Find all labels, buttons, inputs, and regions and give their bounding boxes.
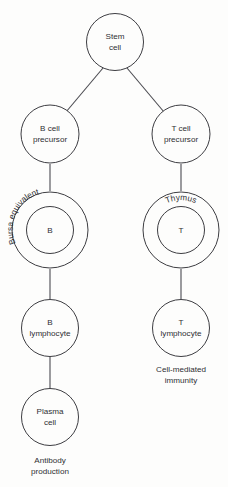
t-cell-precursor-label-line1: T cell — [171, 124, 190, 133]
plasma-cell-circle[interactable] — [22, 389, 79, 446]
lymphocyte-development-diagram: Stem cell B cell precursor T cell precur… — [0, 0, 228, 487]
antibody-caption-line1: Antibody — [34, 456, 66, 465]
node-b-cell-precursor[interactable]: B cell precursor — [21, 105, 79, 163]
bursa-equivalent-inner-label: B — [47, 226, 52, 235]
antibody-caption-line2: production — [31, 467, 69, 476]
b-cell-precursor-label-line2: precursor — [33, 135, 67, 144]
stem-cell-circle[interactable] — [87, 14, 144, 71]
node-t-cell-precursor[interactable]: T cell precursor — [152, 105, 210, 163]
t-lymphocyte-label-line1: T — [179, 318, 184, 327]
b-lymphocyte-label-line2: lymphocyte — [30, 329, 71, 338]
stem-cell-label-line1: Stem — [106, 32, 125, 41]
caption-antibody-production: Antibody production — [31, 456, 69, 476]
node-plasma-cell[interactable]: Plasma cell — [22, 389, 79, 446]
stem-cell-label-line2: cell — [109, 43, 121, 52]
node-t-lymphocyte[interactable]: T lymphocyte — [153, 300, 210, 357]
node-bursa-equivalent[interactable]: Bursa equivalent B — [5, 186, 88, 268]
diagram-canvas: Stem cell B cell precursor T cell precur… — [0, 0, 228, 487]
thymus-inner-label: T — [179, 226, 184, 235]
b-lymphocyte-circle[interactable] — [22, 300, 79, 357]
cell-mediated-caption-line2: immunity — [165, 376, 198, 385]
b-lymphocyte-label-line1: B — [47, 318, 52, 327]
connector-stem-to-b-precursor — [66, 68, 103, 112]
node-b-lymphocyte[interactable]: B lymphocyte — [22, 300, 79, 357]
caption-cell-mediated-immunity: Cell-mediated immunity — [156, 365, 206, 385]
t-cell-precursor-circle[interactable] — [152, 105, 210, 163]
node-thymus[interactable]: Thymus T — [143, 192, 219, 268]
b-cell-precursor-label-line1: B cell — [40, 124, 60, 133]
t-lymphocyte-circle[interactable] — [153, 300, 210, 357]
node-stem-cell[interactable]: Stem cell — [87, 14, 144, 71]
t-lymphocyte-label-line2: lymphocyte — [161, 329, 202, 338]
t-cell-precursor-label-line2: precursor — [164, 135, 198, 144]
cell-mediated-caption-line1: Cell-mediated — [156, 365, 206, 374]
plasma-cell-label-line1: Plasma — [37, 407, 64, 416]
connector-stem-to-t-precursor — [127, 68, 164, 112]
b-cell-precursor-circle[interactable] — [21, 105, 79, 163]
plasma-cell-label-line2: cell — [44, 418, 56, 427]
